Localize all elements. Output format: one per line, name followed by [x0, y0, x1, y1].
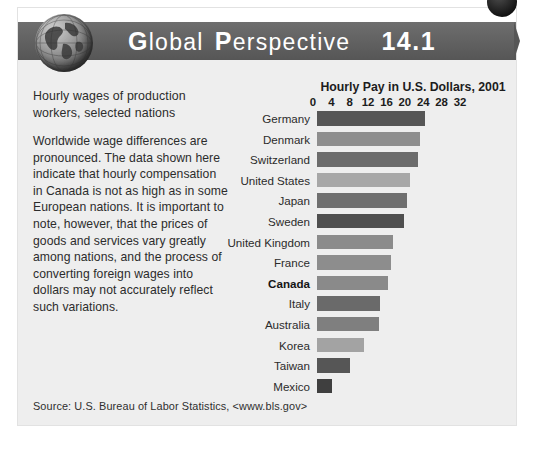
- chart-bar: [317, 193, 407, 208]
- header-title-perspective-rest: erspective: [233, 29, 351, 55]
- chart-row-label: United Kingdom: [228, 236, 311, 249]
- chart-row: Korea: [229, 337, 499, 358]
- chart-row: Japan: [229, 192, 499, 213]
- chart-row-label: Korea: [279, 339, 310, 352]
- header-title-perspective-initial: P: [215, 27, 233, 55]
- chart-row-label: France: [274, 256, 310, 269]
- chart-row-label: Sweden: [268, 215, 310, 228]
- chart-bar: [317, 276, 388, 291]
- chart-bar: [317, 296, 380, 311]
- header-title-perspective: Perspective: [215, 27, 351, 56]
- chart-row: Switzerland: [229, 151, 499, 172]
- chart-bar: [317, 173, 410, 188]
- chart-bar: [317, 132, 420, 147]
- x-axis-tick: 0: [310, 96, 316, 108]
- chart-row: United Kingdom: [229, 234, 499, 255]
- chart-row: Australia: [229, 316, 499, 337]
- chart-bar: [317, 379, 332, 394]
- chart-row: Germany: [229, 110, 499, 131]
- x-axis-tick: 24: [417, 96, 430, 108]
- chart-row-label: Switzerland: [250, 153, 310, 166]
- chart-row: Mexico: [229, 378, 499, 399]
- header-title-global-initial: G: [128, 27, 149, 55]
- globe-icon: [35, 14, 93, 72]
- lede-text: Hourly wages of production workers, sele…: [33, 88, 229, 121]
- chart-bar: [317, 358, 350, 373]
- chart-row-label: Japan: [278, 194, 310, 207]
- chart-row-label: Mexico: [273, 380, 310, 393]
- chart-row-label: Canada: [268, 277, 310, 290]
- body-paragraph: Worldwide wage differences are pronounce…: [33, 133, 229, 316]
- header-title-global-rest: lobal: [149, 29, 204, 55]
- chart-row: United States: [229, 172, 499, 193]
- chart-row-label: Germany: [262, 112, 310, 125]
- chart-bar: [317, 214, 404, 229]
- left-text-column: Hourly wages of production workers, sele…: [33, 88, 229, 316]
- x-axis-tick: 16: [380, 96, 393, 108]
- x-axis-tick: 12: [362, 96, 375, 108]
- x-axis-tick: 4: [328, 96, 334, 108]
- page-root: Global Perspective 14.1 Hourly wages of …: [0, 0, 534, 449]
- chart-bar: [317, 152, 418, 167]
- chart-row-label: Australia: [265, 318, 310, 331]
- chart-row-label: United States: [240, 174, 310, 187]
- source-note: Source: U.S. Bureau of Labor Statistics,…: [33, 400, 307, 412]
- header-title-global: Global: [128, 27, 204, 56]
- x-axis-tick: 32: [454, 96, 467, 108]
- chart-bar: [317, 255, 391, 270]
- chart-row: France: [229, 254, 499, 275]
- x-axis-ticks: 048121620242832: [313, 96, 460, 110]
- chart-plot-area: GermanyDenmarkSwitzerlandUnited StatesJa…: [229, 110, 499, 398]
- chart-title: Hourly Pay in U.S. Dollars, 2001: [313, 80, 513, 94]
- chart-row: Italy: [229, 295, 499, 316]
- chart-bar: [317, 317, 379, 332]
- chart-row: Canada: [229, 275, 499, 296]
- header-box-number: 14.1: [381, 27, 436, 56]
- header-title: Global Perspective 14.1: [128, 25, 436, 58]
- chart-row-label: Taiwan: [274, 359, 310, 372]
- chart-row-label: Denmark: [263, 133, 310, 146]
- chart-bar: [317, 338, 364, 353]
- chart-bar: [317, 111, 425, 126]
- chart-row: Taiwan: [229, 357, 499, 378]
- x-axis-tick: 8: [347, 96, 353, 108]
- x-axis-tick: 28: [435, 96, 448, 108]
- chart-row-label: Italy: [289, 297, 310, 310]
- x-axis-tick: 20: [399, 96, 412, 108]
- chart-row: Sweden: [229, 213, 499, 234]
- chart-bar: [317, 235, 393, 250]
- chart-row: Denmark: [229, 131, 499, 152]
